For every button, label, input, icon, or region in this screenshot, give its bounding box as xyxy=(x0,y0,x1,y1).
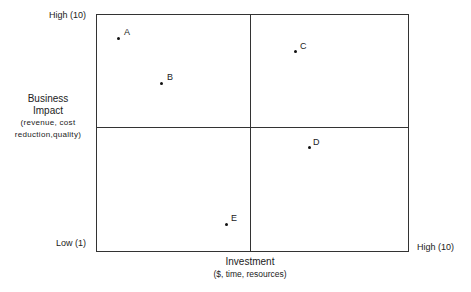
point-e-label: E xyxy=(231,213,237,223)
x-axis-title: Investment ($, time, resources) xyxy=(180,255,320,281)
y-axis-sub-line1: (revenue, cost xyxy=(0,117,96,129)
point-b-marker xyxy=(160,82,163,85)
x-axis-sub: ($, time, resources) xyxy=(180,268,320,281)
point-b-label: B xyxy=(167,72,173,82)
quadrant-frame xyxy=(96,14,409,252)
point-e-marker xyxy=(225,223,228,226)
point-d-marker xyxy=(308,146,311,149)
y-axis-sub-line2: reduction,quality) xyxy=(0,129,96,141)
horizontal-divider xyxy=(96,127,409,128)
y-axis-label-line2: Impact xyxy=(0,105,96,117)
y-low-label: Low (1) xyxy=(56,238,86,248)
y-axis-label-line1: Business xyxy=(0,93,96,105)
y-axis-title: Business Impact (revenue, cost reduction… xyxy=(0,93,96,141)
point-c-marker xyxy=(294,50,297,53)
point-a-label: A xyxy=(124,27,130,37)
point-a-marker xyxy=(117,37,120,40)
y-high-label: High (10) xyxy=(49,10,86,20)
point-d-label: D xyxy=(313,137,320,147)
x-high-label: High (10) xyxy=(417,242,454,252)
x-axis-label: Investment xyxy=(180,255,320,268)
vertical-divider xyxy=(250,14,251,252)
point-c-label: C xyxy=(300,41,307,51)
